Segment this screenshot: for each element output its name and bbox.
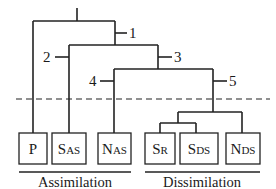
group-label-assimilation: Assimilation bbox=[38, 174, 113, 189]
node-label-3: 3 bbox=[174, 49, 182, 65]
node-label-1: 1 bbox=[129, 25, 137, 41]
leaf-label-p: P bbox=[29, 141, 37, 157]
node-label-2: 2 bbox=[43, 49, 51, 65]
node-label-5: 5 bbox=[229, 73, 237, 89]
group-label-dissimilation: Dissimilation bbox=[163, 174, 242, 189]
leaf-label-sds: SDS bbox=[188, 141, 210, 157]
leaf-label-sas: SAS bbox=[58, 141, 80, 157]
leaf-label-nds: NDS bbox=[231, 141, 256, 157]
tree-diagram: 1 2 3 4 5 P SAS NAS SR SDS NDS Assimilat… bbox=[0, 0, 276, 189]
leaf-label-nas: NAS bbox=[102, 141, 127, 157]
node-label-4: 4 bbox=[89, 73, 97, 89]
leaf-label-sr: SR bbox=[152, 141, 168, 157]
